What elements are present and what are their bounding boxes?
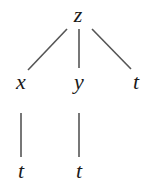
node-y: y xyxy=(72,69,84,94)
node-t-under-x: t xyxy=(18,158,25,183)
dependency-tree: z x y t t t xyxy=(0,0,153,187)
node-t-right: t xyxy=(133,69,140,94)
node-t-under-y: t xyxy=(76,158,83,183)
edge-z-x xyxy=(28,29,67,70)
edge-z-t xyxy=(92,29,131,69)
node-z: z xyxy=(73,2,83,27)
node-x: x xyxy=(15,69,26,94)
